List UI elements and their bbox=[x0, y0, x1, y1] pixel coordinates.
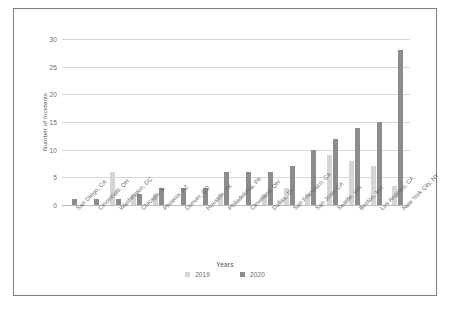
y-axis-tick-label: 10 bbox=[50, 146, 57, 153]
legend-entry-2019[interactable]: 2019 bbox=[185, 271, 210, 278]
bar-group bbox=[345, 39, 367, 205]
y-axis-tick-label: 0 bbox=[53, 202, 57, 209]
y-axis-tick-label: 5 bbox=[53, 174, 57, 181]
bar-2020 bbox=[137, 194, 142, 205]
y-axis-title: Number of Incidents bbox=[41, 93, 48, 151]
y-axis-tick-label: 20 bbox=[50, 91, 57, 98]
legend-label: 2020 bbox=[250, 271, 265, 278]
bar-group bbox=[367, 39, 389, 205]
bar-2020 bbox=[311, 150, 316, 205]
bars-layer bbox=[62, 39, 410, 205]
bar-group bbox=[193, 39, 215, 205]
x-axis-tick-labels: San Diego, CACincinnatti, OHWashington, … bbox=[62, 207, 410, 267]
y-axis-tick-label: 15 bbox=[50, 119, 57, 126]
bar-group bbox=[280, 39, 302, 205]
x-axis-title: Years bbox=[14, 261, 436, 268]
legend-entry-2020[interactable]: 2020 bbox=[240, 271, 265, 278]
chart-figure-frame: Number of Incidents 051015202530 San Die… bbox=[13, 8, 437, 296]
plot-area: 051015202530 bbox=[62, 39, 410, 205]
legend-swatch-icon bbox=[240, 272, 245, 277]
bar-group bbox=[214, 39, 236, 205]
y-axis-tick-label: 30 bbox=[50, 36, 57, 43]
bar-group bbox=[62, 39, 84, 205]
bar-group bbox=[171, 39, 193, 205]
bar-2020 bbox=[290, 166, 295, 205]
y-axis-tick-label: 25 bbox=[50, 63, 57, 70]
legend-label: 2019 bbox=[195, 271, 210, 278]
legend-swatch-icon bbox=[185, 272, 190, 277]
chart-legend: 20192020 bbox=[14, 271, 436, 278]
